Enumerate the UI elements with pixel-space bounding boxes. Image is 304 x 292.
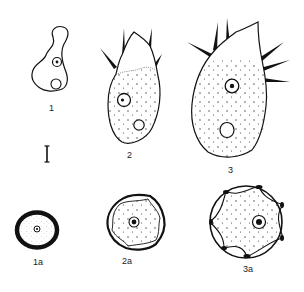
panel-3a: 3a: [209, 185, 284, 274]
panel-label-2: 2: [127, 150, 132, 160]
spine-3f: [263, 78, 290, 82]
panel-label-3: 3: [228, 165, 233, 175]
panel-1: 1: [32, 27, 68, 113]
spine-3d: [259, 42, 284, 62]
nucleolus-1a: [36, 228, 38, 230]
nucleolus-2a: [132, 220, 137, 225]
nucleolus-3a: [256, 219, 262, 225]
vacuole-1: [51, 79, 61, 89]
nucleolus-3: [230, 84, 234, 88]
nucleolus-2: [121, 98, 124, 101]
cell-outline-1: [32, 27, 68, 91]
scale-bar: [45, 146, 50, 162]
spine-2c: [100, 48, 117, 69]
stippled-region-2: [108, 67, 159, 143]
panel-label-1: 1: [49, 103, 54, 113]
panel-label-1a: 1a: [33, 257, 43, 267]
panel-1a: 1a: [17, 213, 57, 268]
panel-label-3a: 3a: [243, 264, 253, 274]
figure-canvas: 1 2 3: [0, 0, 304, 292]
spine-3c: [187, 42, 212, 57]
vacuole-3: [220, 123, 234, 138]
panel-2: 2: [100, 28, 162, 160]
nucleolus-1: [56, 61, 59, 64]
panel-label-2a: 2a: [122, 256, 132, 266]
panel-2a: 2a: [107, 195, 164, 266]
vacuole-2: [134, 120, 144, 130]
panel-3: 3: [187, 18, 290, 175]
stippled-region-3: [192, 58, 268, 157]
